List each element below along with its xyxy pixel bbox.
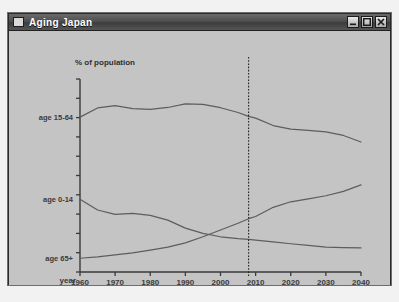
x-axis-tick-label: 2020 — [282, 278, 300, 285]
close-icon — [376, 17, 386, 27]
x-axis-tick-labels: 196019701980199020002010202020302040 — [71, 278, 370, 285]
x-axis-tick-label: 1980 — [141, 278, 159, 285]
maximize-button[interactable] — [361, 16, 373, 28]
window-controls — [347, 16, 387, 28]
series-label: age 15-64 — [39, 113, 74, 122]
window-client-area: 196019701980199020002010202020302040 age… — [9, 31, 390, 285]
x-axis-tick-label: 1970 — [106, 278, 124, 285]
line-chart: 196019701980199020002010202020302040 age… — [9, 31, 392, 285]
chart-series-lines — [80, 104, 361, 258]
minimize-button[interactable] — [347, 16, 359, 28]
series-label: age 0-14 — [43, 195, 74, 204]
x-axis-tick-label: 1990 — [176, 278, 194, 285]
chart-series-labels: age 15-64age 0-14age 65+ — [39, 113, 74, 263]
series-line — [80, 199, 361, 248]
series-line — [80, 185, 361, 258]
close-button[interactable] — [375, 16, 387, 28]
minimize-icon — [348, 17, 358, 27]
window-title: Aging Japan — [29, 17, 92, 28]
screen: Aging Japan — [0, 0, 399, 302]
series-line — [80, 104, 361, 142]
x-axis-tick-label: 2010 — [247, 278, 265, 285]
x-axis-title: year — [60, 276, 76, 285]
series-label: age 65+ — [45, 254, 73, 263]
x-axis-tick-label: 2000 — [212, 278, 230, 285]
chart-canvas: 196019701980199020002010202020302040 age… — [9, 31, 392, 285]
x-axis-tick-label: 2040 — [352, 278, 370, 285]
application-window: Aging Japan — [8, 13, 391, 285]
window-app-icon — [13, 17, 24, 27]
y-axis-title: % of population — [75, 58, 135, 67]
x-axis-tick-label: 2030 — [317, 278, 335, 285]
window-titlebar[interactable]: Aging Japan — [9, 14, 390, 31]
maximize-icon — [362, 17, 372, 27]
